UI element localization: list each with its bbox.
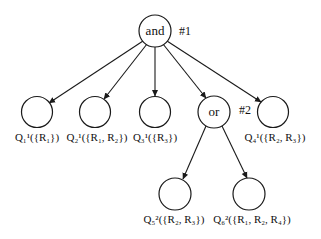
edge-and-q4	[167, 41, 261, 102]
q3-label: Q₃¹({R₃})	[133, 131, 177, 144]
edge-or-q5	[183, 126, 206, 179]
q2-label: Q₂¹({R₁, R₂})	[67, 131, 128, 144]
edge-and-q1	[49, 41, 143, 103]
q2-node	[80, 97, 111, 128]
q5-label: Q₅²({R₂, R₃})	[144, 213, 205, 226]
or-node-label: or	[209, 104, 221, 119]
or-node: or	[198, 96, 230, 128]
diagram-svg: and #1 or #2 Q₁¹({R₁}) Q₂¹({R₁, R₂}) Q₃¹…	[0, 0, 321, 239]
and-node: and	[139, 15, 171, 47]
q6-label: Q₆²({R₁, R₂, R₄})	[213, 213, 291, 226]
edge-or-q6	[222, 126, 247, 178]
query-tree-diagram: and #1 or #2 Q₁¹({R₁}) Q₂¹({R₁, R₂}) Q₃¹…	[0, 0, 321, 239]
and-node-tag: #1	[179, 24, 191, 38]
q4-node	[258, 97, 289, 128]
q1-node	[22, 97, 53, 128]
and-node-label: and	[146, 23, 165, 38]
q5-node	[159, 178, 191, 210]
q3-node	[140, 97, 171, 128]
q6-node	[233, 178, 265, 210]
q1-label: Q₁¹({R₁})	[15, 131, 59, 144]
or-node-tag: #2	[239, 103, 251, 117]
q4-label: Q₄¹({R₂, R₃})	[245, 131, 306, 144]
